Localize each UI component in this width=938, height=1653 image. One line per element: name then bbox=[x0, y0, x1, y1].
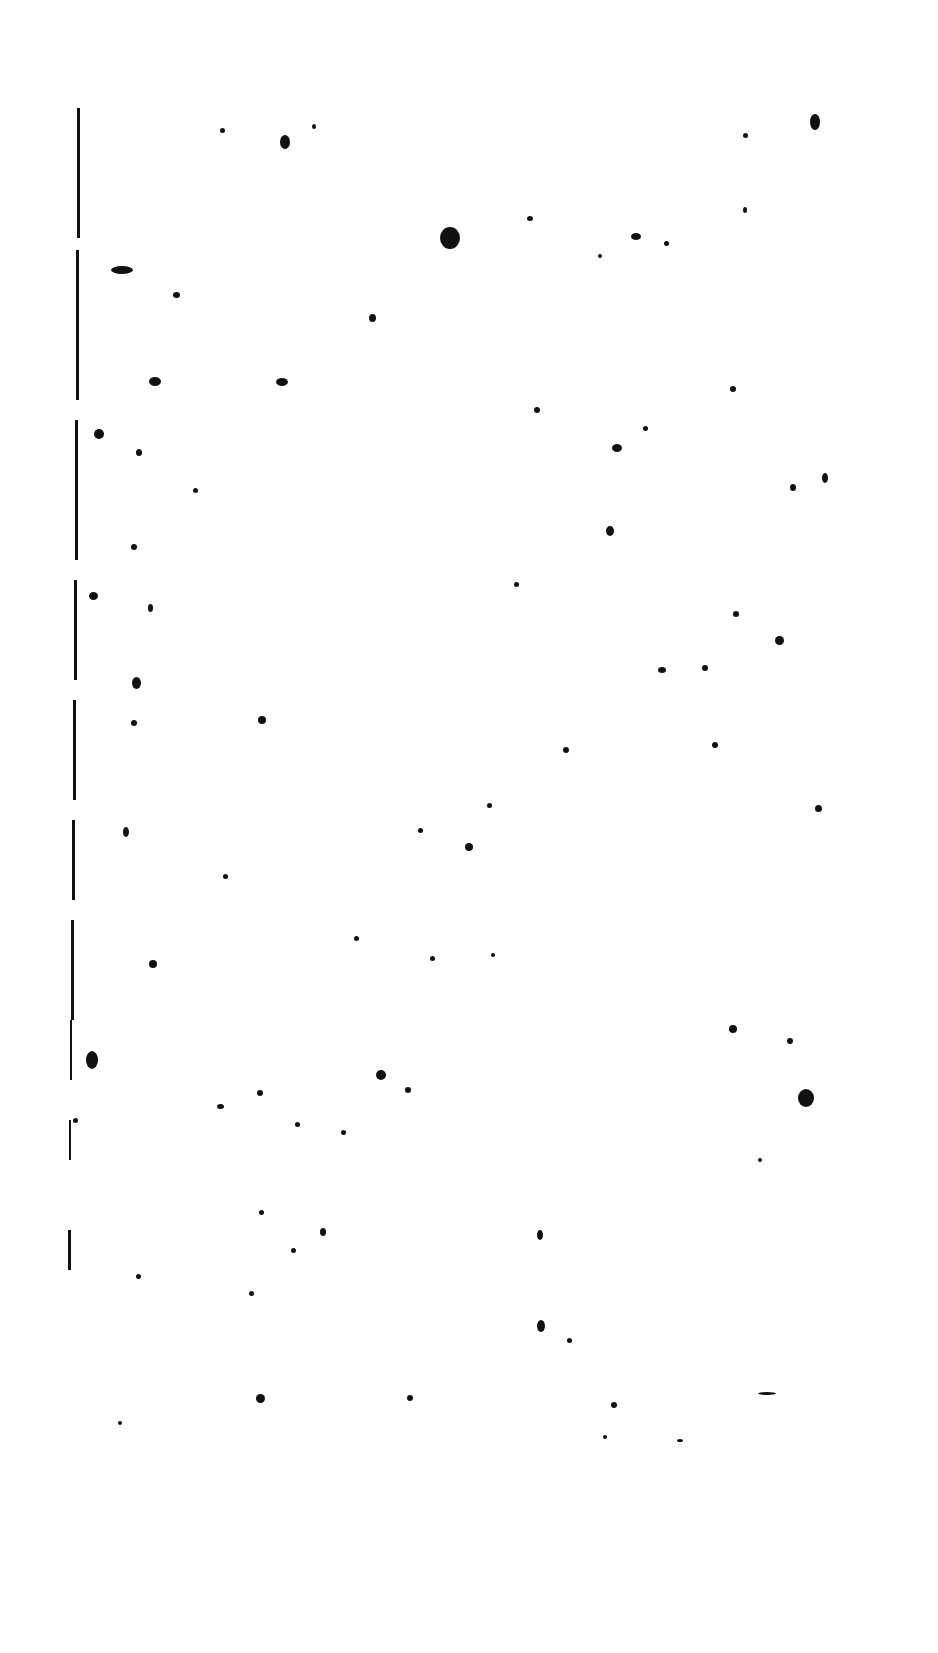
scan-speckle bbox=[567, 1338, 572, 1343]
scan-speckle bbox=[534, 407, 540, 413]
scan-speckle bbox=[73, 1118, 78, 1123]
scan-speckle bbox=[815, 805, 822, 812]
scan-speckle bbox=[291, 1248, 296, 1253]
scan-speckle bbox=[729, 1025, 737, 1033]
scan-edge-line bbox=[76, 250, 79, 400]
scan-speckle bbox=[118, 1421, 122, 1425]
scan-speckle bbox=[643, 426, 648, 431]
scan-speckle bbox=[131, 720, 137, 726]
scan-edge-line bbox=[69, 1120, 71, 1160]
scan-speckle bbox=[631, 233, 641, 240]
scan-speckle bbox=[249, 1291, 254, 1296]
scan-edge-line bbox=[71, 920, 74, 1020]
scan-speckle bbox=[658, 667, 666, 673]
scan-speckle bbox=[136, 1274, 141, 1279]
scan-edge-line bbox=[75, 420, 78, 560]
scan-speckle bbox=[798, 1089, 814, 1107]
scan-speckle bbox=[611, 1402, 617, 1408]
scan-speckle bbox=[537, 1230, 543, 1240]
scan-speckle bbox=[563, 747, 569, 753]
scan-speckle bbox=[217, 1104, 224, 1109]
scan-speckle bbox=[405, 1087, 411, 1093]
scan-speckle bbox=[173, 292, 180, 298]
scan-speckle bbox=[743, 133, 748, 138]
scan-speckle bbox=[312, 124, 316, 129]
scan-speckle bbox=[733, 611, 739, 617]
scan-speckle bbox=[537, 1320, 545, 1332]
scan-speckle bbox=[131, 544, 137, 550]
scan-edge-line bbox=[77, 108, 80, 238]
scan-speckle bbox=[193, 488, 198, 493]
scan-speckle bbox=[491, 953, 495, 957]
scan-speckle bbox=[822, 473, 828, 483]
scan-speckle bbox=[354, 936, 359, 941]
scan-speckle bbox=[369, 314, 376, 322]
scan-speckle bbox=[376, 1070, 386, 1080]
scan-speckle bbox=[527, 216, 533, 221]
scan-speckle bbox=[790, 484, 796, 491]
scan-speckle bbox=[810, 114, 820, 130]
scan-speckle bbox=[606, 526, 614, 536]
scan-edge-line bbox=[74, 580, 77, 680]
scan-speckle bbox=[702, 665, 708, 671]
scan-speckle bbox=[487, 803, 492, 808]
scan-speckle bbox=[94, 429, 104, 439]
scan-speckle bbox=[295, 1122, 300, 1127]
scan-speckle bbox=[223, 874, 228, 879]
scan-speckle bbox=[664, 241, 669, 246]
scan-speckle bbox=[514, 582, 519, 587]
scan-speckle bbox=[132, 677, 141, 689]
scan-speckle bbox=[149, 377, 161, 386]
scan-speckle bbox=[89, 592, 98, 600]
scan-speckle bbox=[775, 636, 784, 645]
scan-edge-line bbox=[73, 700, 76, 800]
scan-speckle bbox=[148, 604, 153, 612]
scan-speckle bbox=[730, 386, 736, 392]
scan-speckle bbox=[258, 716, 266, 724]
scan-speckle bbox=[612, 444, 622, 452]
scan-speckle bbox=[598, 254, 602, 258]
scan-speckle bbox=[418, 828, 423, 833]
scan-speckle bbox=[712, 742, 718, 748]
scan-speckle bbox=[430, 956, 435, 961]
scan-speckle bbox=[758, 1158, 762, 1162]
scanned-blank-page bbox=[0, 0, 938, 1653]
scan-speckle bbox=[787, 1038, 793, 1044]
scan-speckle bbox=[257, 1090, 263, 1096]
scan-speckle bbox=[111, 266, 133, 274]
scan-edge-line bbox=[68, 1230, 71, 1270]
scan-edge-line bbox=[72, 820, 75, 900]
scan-speckle bbox=[677, 1439, 683, 1442]
scan-speckle bbox=[86, 1051, 98, 1069]
scan-speckle bbox=[256, 1394, 265, 1403]
scan-speckle bbox=[123, 827, 129, 837]
scan-speckle bbox=[603, 1435, 607, 1439]
scan-speckle bbox=[465, 843, 473, 851]
scan-speckle bbox=[276, 378, 288, 386]
scan-speckle bbox=[440, 227, 460, 249]
scan-speckle bbox=[758, 1392, 776, 1395]
scan-speckle bbox=[220, 128, 225, 133]
scan-edge-line bbox=[70, 1020, 72, 1080]
scan-speckle bbox=[320, 1228, 326, 1236]
scan-speckle bbox=[280, 135, 290, 149]
scan-speckle bbox=[136, 449, 142, 456]
scan-speckle bbox=[743, 207, 747, 213]
scan-speckle bbox=[149, 960, 157, 968]
scan-speckle bbox=[259, 1210, 264, 1215]
scan-speckle bbox=[341, 1130, 346, 1135]
scan-speckle bbox=[407, 1395, 413, 1401]
